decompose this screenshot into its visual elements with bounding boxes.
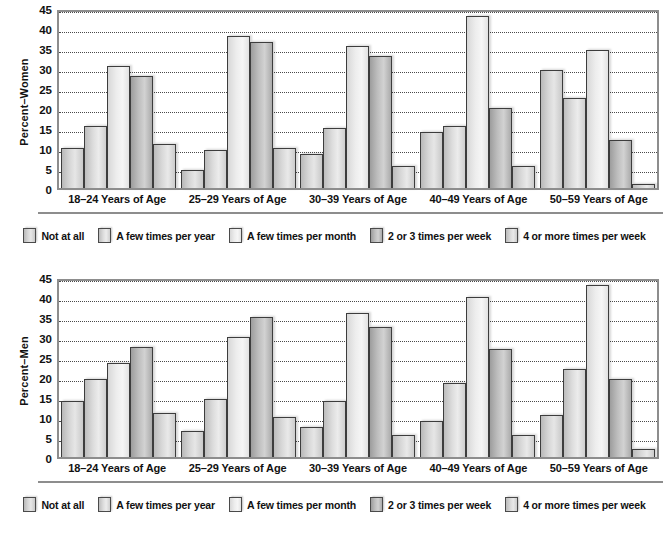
legend-item: A few times per month <box>229 497 356 512</box>
bar-group <box>300 281 415 459</box>
y-tick-label: 20 <box>26 373 52 385</box>
bar <box>392 166 415 190</box>
x-category-label: 18–24 Years of Age <box>68 193 166 213</box>
bar <box>273 417 296 459</box>
bar <box>130 76 153 190</box>
legend-item: Not at all <box>23 497 84 512</box>
bar <box>323 401 346 459</box>
y-tick-label: 0 <box>26 184 52 196</box>
y-tick-label: 45 <box>26 273 52 285</box>
bar <box>300 154 323 190</box>
bar <box>153 413 176 459</box>
bar <box>563 369 586 459</box>
panel-divider-men <box>38 481 663 483</box>
y-tick-label: 15 <box>26 393 52 405</box>
legend-swatch-icon <box>370 228 383 243</box>
legend-swatch-icon <box>98 228 111 243</box>
bar <box>204 150 227 190</box>
legend-item: 2 or 3 times per week <box>370 228 491 243</box>
legend-label: A few times per year <box>116 499 215 511</box>
plot-area-men: Percent–Men 454035302520151050 18–24 Yea… <box>0 269 669 494</box>
legend-swatch-icon <box>505 228 518 243</box>
x-category-label: 30–39 Years of Age <box>309 462 407 482</box>
bar <box>300 427 323 459</box>
bar-group <box>181 281 296 459</box>
bar <box>392 435 415 459</box>
x-category-label: 30–39 Years of Age <box>309 193 407 213</box>
plot-area-women: Percent–Women 454035302520151050 18–24 Y… <box>0 0 669 225</box>
bar <box>181 170 204 190</box>
x-category-label: 18–24 Years of Age <box>68 462 166 482</box>
legend-label: A few times per year <box>116 230 215 242</box>
bar <box>346 46 369 190</box>
legend-swatch-icon <box>229 228 242 243</box>
plot-box-men <box>57 279 659 459</box>
bar <box>323 128 346 190</box>
bar-group <box>420 281 535 459</box>
legend-item: A few times per month <box>229 228 356 243</box>
chart-panel-men: Percent–Men 454035302520151050 18–24 Yea… <box>0 269 669 537</box>
y-tick-label: 5 <box>26 433 52 445</box>
bar <box>466 297 489 459</box>
y-tick-label: 15 <box>26 124 52 136</box>
legend-women: Not at allA few times per yearA few time… <box>0 228 669 243</box>
bar <box>107 66 130 190</box>
bar-group <box>181 12 296 190</box>
legend-label: A few times per month <box>247 499 356 511</box>
bar <box>369 327 392 459</box>
bar-group <box>540 281 655 459</box>
y-axis-ticks-men: 454035302520151050 <box>26 279 52 459</box>
bar <box>540 415 563 459</box>
bar <box>84 379 107 459</box>
y-tick-label: 0 <box>26 453 52 465</box>
panel-divider-women <box>38 212 663 214</box>
bar <box>153 144 176 190</box>
bar-group <box>420 12 535 190</box>
legend-item: A few times per year <box>98 228 215 243</box>
bar <box>443 383 466 459</box>
y-tick-label: 25 <box>26 84 52 96</box>
bar <box>250 42 273 190</box>
bar <box>586 285 609 459</box>
legend-item: A few times per year <box>98 497 215 512</box>
bar <box>609 140 632 190</box>
bar <box>443 126 466 190</box>
bar <box>563 98 586 190</box>
bar <box>346 313 369 459</box>
y-tick-label: 30 <box>26 64 52 76</box>
bar <box>466 16 489 190</box>
y-tick-label: 30 <box>26 333 52 345</box>
x-category-label: 50–59 Years of Age <box>550 193 648 213</box>
legend-swatch-icon <box>98 497 111 512</box>
bar <box>540 70 563 190</box>
bar <box>586 50 609 190</box>
bar <box>61 148 84 190</box>
y-tick-label: 5 <box>26 164 52 176</box>
y-tick-label: 35 <box>26 44 52 56</box>
plot-box-women <box>57 10 659 190</box>
legend-item: Not at all <box>23 228 84 243</box>
bar <box>250 317 273 459</box>
x-category-label: 50–59 Years of Age <box>550 462 648 482</box>
x-category-label: 25–29 Years of Age <box>189 193 287 213</box>
bar <box>227 36 250 190</box>
legend-swatch-icon <box>23 497 36 512</box>
bar <box>61 401 84 459</box>
y-tick-label: 45 <box>26 4 52 16</box>
legend-label: 4 or more times per week <box>523 230 645 242</box>
bar <box>512 435 535 459</box>
bar <box>369 56 392 190</box>
bar-group <box>540 12 655 190</box>
y-tick-label: 10 <box>26 144 52 156</box>
bar-group <box>300 12 415 190</box>
chart-panel-women: Percent–Women 454035302520151050 18–24 Y… <box>0 0 669 268</box>
bar <box>227 337 250 459</box>
bar-groups-women <box>59 12 657 190</box>
bar-group <box>61 12 176 190</box>
x-category-label: 40–49 Years of Age <box>429 193 527 213</box>
legend-label: 2 or 3 times per week <box>388 230 491 242</box>
legend-men: Not at allA few times per yearA few time… <box>0 497 669 512</box>
x-axis-categories-men: 18–24 Years of Age25–29 Years of Age30–3… <box>57 462 659 482</box>
bar-group <box>61 281 176 459</box>
bar <box>130 347 153 459</box>
